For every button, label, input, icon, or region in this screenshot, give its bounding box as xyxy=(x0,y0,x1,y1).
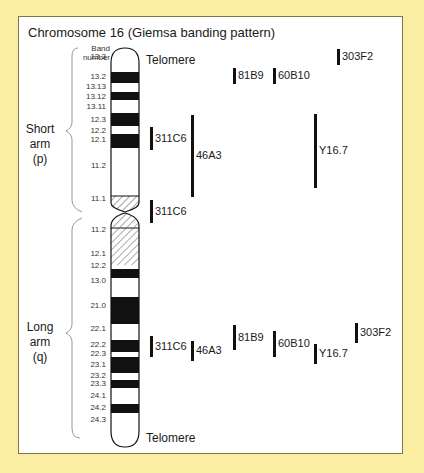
probe-label: 311C6 xyxy=(155,340,187,352)
probe-bar xyxy=(355,323,358,343)
probe-bar xyxy=(150,336,153,357)
probe-label: Y16.7 xyxy=(319,144,348,156)
probe-bar xyxy=(337,49,340,65)
probe-label: 311C6 xyxy=(155,132,187,144)
probe-label: 60B10 xyxy=(278,337,310,349)
probe-bar xyxy=(273,68,276,84)
probe-bar xyxy=(233,325,236,350)
probe-label: 81B9 xyxy=(238,69,264,81)
long-arm-bracket xyxy=(66,218,82,438)
probe-label: 303F2 xyxy=(342,50,373,62)
probe-bar xyxy=(233,68,236,84)
probe-label: 46A3 xyxy=(196,149,222,161)
probe-label: 60B10 xyxy=(278,69,310,81)
probe-bar xyxy=(273,331,276,357)
probe-bar xyxy=(314,114,317,188)
probe-bar xyxy=(314,344,317,364)
probe-label: 81B9 xyxy=(238,331,264,343)
probe-bar xyxy=(191,341,194,361)
probe-bar xyxy=(150,127,153,150)
probe-bar xyxy=(191,115,194,197)
short-arm-bracket xyxy=(66,48,82,212)
probe-label: 303F2 xyxy=(360,326,391,338)
probe-bar xyxy=(150,200,153,223)
probe-label: 46A3 xyxy=(196,344,222,356)
probe-label: 311C6 xyxy=(155,205,187,217)
probe-label: Y16.7 xyxy=(319,347,348,359)
chromosome-diagram xyxy=(0,0,424,473)
